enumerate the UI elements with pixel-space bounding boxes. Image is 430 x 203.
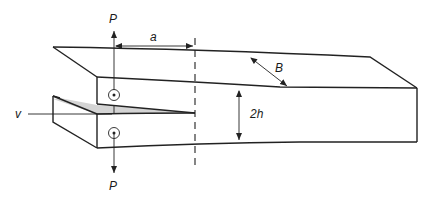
upper-arm-left-diagonal <box>53 47 97 77</box>
beam-body <box>53 47 417 148</box>
top-face-front-edge <box>97 77 417 88</box>
label-2h: 2h <box>249 107 264 121</box>
bottom-edge <box>97 142 417 148</box>
label-a: a <box>150 30 157 44</box>
dcb-specimen-diagram: P P a v B 2h <box>0 0 430 203</box>
top-face-back-edge <box>53 47 417 88</box>
label-P-top: P <box>109 12 117 26</box>
label-v: v <box>15 107 22 121</box>
label-B: B <box>275 61 283 75</box>
label-P-bottom: P <box>109 179 117 193</box>
